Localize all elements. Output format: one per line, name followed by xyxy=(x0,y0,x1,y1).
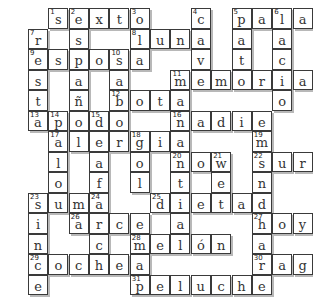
crossword-cell[interactable]: ó xyxy=(191,234,211,255)
crossword-cell[interactable]: e xyxy=(252,275,272,296)
crossword-cell[interactable]: i xyxy=(28,213,48,234)
crossword-cell[interactable]: 12b xyxy=(109,90,129,111)
crossword-cell[interactable]: m xyxy=(69,193,89,214)
crossword-cell[interactable]: 25d xyxy=(150,193,170,214)
crossword-cell[interactable]: a xyxy=(272,29,292,50)
crossword-cell[interactable]: 13a xyxy=(28,111,48,132)
crossword-cell[interactable]: y xyxy=(293,213,313,234)
crossword-cell[interactable]: u xyxy=(272,152,292,173)
crossword-cell[interactable]: s xyxy=(28,70,48,91)
crossword-cell[interactable]: a xyxy=(89,152,109,173)
crossword-cell[interactable]: 10s xyxy=(109,49,129,70)
crossword-cell[interactable]: a xyxy=(293,8,313,29)
crossword-cell[interactable]: a xyxy=(252,8,272,29)
crossword-cell[interactable]: 17a xyxy=(48,131,68,152)
crossword-cell[interactable]: a xyxy=(170,213,190,234)
crossword-cell[interactable]: h xyxy=(89,254,109,275)
crossword-cell[interactable]: 11m xyxy=(170,70,190,91)
crossword-cell[interactable]: e xyxy=(150,234,170,255)
crossword-cell[interactable]: t xyxy=(150,90,170,111)
crossword-cell[interactable]: c xyxy=(69,254,89,275)
crossword-cell[interactable]: h xyxy=(232,275,252,296)
crossword-cell[interactable]: 3o xyxy=(130,8,150,29)
crossword-cell[interactable]: r xyxy=(89,213,109,234)
crossword-cell[interactable]: 31p xyxy=(130,275,150,296)
crossword-cell[interactable]: m xyxy=(211,70,231,91)
crossword-cell[interactable]: 5p xyxy=(232,8,252,29)
crossword-cell[interactable]: t xyxy=(28,90,48,111)
crossword-cell[interactable]: a xyxy=(130,49,150,70)
crossword-cell[interactable]: o xyxy=(130,152,150,173)
crossword-cell[interactable]: 2e xyxy=(69,8,89,29)
crossword-cell[interactable]: u xyxy=(191,275,211,296)
crossword-cell[interactable]: e xyxy=(211,172,231,193)
crossword-cell[interactable]: 19m xyxy=(252,131,272,152)
crossword-cell[interactable]: a xyxy=(272,254,292,275)
crossword-cell[interactable]: 1s xyxy=(48,8,68,29)
crossword-cell[interactable]: 28m xyxy=(130,234,150,255)
crossword-cell[interactable]: c xyxy=(272,49,292,70)
crossword-cell[interactable]: o xyxy=(89,49,109,70)
crossword-cell[interactable]: t xyxy=(109,8,129,29)
crossword-cell[interactable]: t xyxy=(232,49,252,70)
crossword-cell[interactable]: r xyxy=(252,70,272,91)
crossword-cell[interactable]: 22s xyxy=(252,152,272,173)
crossword-cell[interactable]: ñ xyxy=(69,90,89,111)
crossword-cell[interactable]: o xyxy=(48,254,68,275)
crossword-cell[interactable]: u xyxy=(150,29,170,50)
crossword-cell[interactable]: c xyxy=(109,213,129,234)
crossword-cell[interactable]: o xyxy=(130,90,150,111)
crossword-cell[interactable]: a xyxy=(170,90,190,111)
crossword-cell[interactable]: l xyxy=(69,131,89,152)
crossword-cell[interactable]: 26a xyxy=(69,213,89,234)
crossword-cell[interactable]: 20n xyxy=(170,152,190,173)
crossword-cell[interactable]: n xyxy=(252,172,272,193)
crossword-cell[interactable]: l xyxy=(48,152,68,173)
crossword-cell[interactable]: o xyxy=(272,213,292,234)
crossword-cell[interactable]: l xyxy=(170,234,190,255)
crossword-cell[interactable]: i xyxy=(150,131,170,152)
crossword-cell[interactable]: d xyxy=(211,111,231,132)
crossword-cell[interactable]: 27h xyxy=(252,213,272,234)
crossword-cell[interactable]: n xyxy=(211,234,231,255)
crossword-cell[interactable]: e xyxy=(191,193,211,214)
crossword-cell[interactable]: g xyxy=(293,254,313,275)
crossword-cell[interactable]: e xyxy=(191,70,211,91)
crossword-cell[interactable]: i xyxy=(170,193,190,214)
crossword-cell[interactable]: r xyxy=(109,131,129,152)
crossword-cell[interactable]: o xyxy=(109,111,129,132)
crossword-cell[interactable]: a xyxy=(293,70,313,91)
crossword-cell[interactable]: x xyxy=(89,8,109,29)
crossword-cell[interactable]: 9e xyxy=(28,49,48,70)
crossword-cell[interactable]: 4c xyxy=(191,8,211,29)
crossword-cell[interactable]: n xyxy=(170,29,190,50)
crossword-cell[interactable]: c xyxy=(211,275,231,296)
crossword-cell[interactable]: e xyxy=(89,131,109,152)
crossword-cell[interactable]: i xyxy=(232,111,252,132)
crossword-cell[interactable]: 29c xyxy=(28,254,48,275)
crossword-cell[interactable]: 15d xyxy=(89,111,109,132)
crossword-cell[interactable]: a xyxy=(252,234,272,255)
crossword-cell[interactable]: 8l xyxy=(130,29,150,50)
crossword-cell[interactable]: d xyxy=(252,193,272,214)
crossword-cell[interactable]: a xyxy=(69,70,89,91)
crossword-cell[interactable]: p xyxy=(69,49,89,70)
crossword-cell[interactable]: 30r xyxy=(252,254,272,275)
crossword-cell[interactable]: s xyxy=(69,29,89,50)
crossword-cell[interactable]: 24a xyxy=(89,193,109,214)
crossword-cell[interactable]: f xyxy=(89,172,109,193)
crossword-cell[interactable]: 6l xyxy=(272,8,292,29)
crossword-cell[interactable]: n xyxy=(28,234,48,255)
crossword-cell[interactable]: l xyxy=(130,172,150,193)
crossword-cell[interactable]: 21w xyxy=(211,152,231,173)
crossword-cell[interactable]: u xyxy=(48,193,68,214)
crossword-cell[interactable]: a xyxy=(191,29,211,50)
crossword-cell[interactable]: a xyxy=(130,254,150,275)
crossword-cell[interactable]: 23s xyxy=(28,193,48,214)
crossword-cell[interactable]: r xyxy=(293,152,313,173)
crossword-cell[interactable]: o xyxy=(232,70,252,91)
crossword-cell[interactable]: t xyxy=(211,193,231,214)
crossword-cell[interactable]: a xyxy=(109,70,129,91)
crossword-cell[interactable]: e xyxy=(109,254,129,275)
crossword-cell[interactable]: o xyxy=(272,90,292,111)
